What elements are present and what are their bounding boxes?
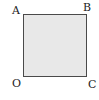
vertex-label-a: A (12, 5, 20, 16)
square-oabc (23, 14, 87, 77)
vertex-label-b: B (83, 2, 91, 13)
vertex-label-c: C (88, 79, 96, 90)
vertex-label-o: O (12, 78, 21, 89)
